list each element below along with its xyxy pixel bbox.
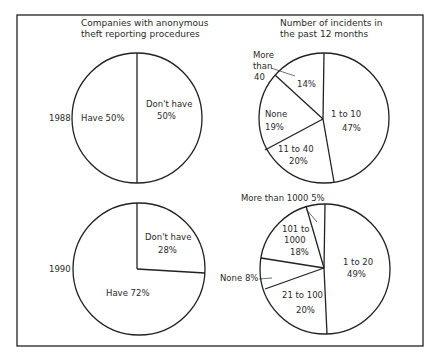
slice-label-none: None 8% — [220, 273, 258, 283]
slice-label-have: Have 50% — [81, 113, 124, 123]
right-column-title: Number of incidents in the past 12 month… — [280, 18, 382, 39]
slice-label-dont-have: Don't have — [145, 232, 191, 242]
svg-text:theft reporting procedures: theft reporting procedures — [81, 29, 200, 39]
slice-label-none: None — [265, 109, 287, 119]
slice-label-11-to-40: 11 to 40 — [278, 144, 314, 154]
svg-text:18%: 18% — [290, 247, 309, 257]
svg-text:the past 12 months: the past 12 months — [280, 29, 368, 39]
svg-text:Companies with anonymous: Companies with anonymous — [81, 18, 209, 28]
pie-1988-companies: Have 50% Don't have 50% — [72, 53, 202, 183]
svg-text:Number of incidents in: Number of incidents in — [280, 18, 382, 28]
slice-pct-more-than-40: 14% — [297, 79, 316, 89]
slice-label-more-than-1000: More than 1000 5% — [241, 193, 325, 203]
svg-text:20%: 20% — [289, 156, 308, 166]
svg-text:40: 40 — [254, 72, 265, 82]
slice-label-more-than-40: More — [253, 50, 274, 60]
slice-label-101-to-1000: 101 to — [282, 224, 309, 234]
slice-label-have: Have 72% — [106, 288, 149, 298]
pie-charts-figure: Companies with anonymous theft reporting… — [0, 0, 440, 360]
svg-text:than: than — [253, 61, 272, 71]
svg-text:19%: 19% — [265, 122, 284, 132]
year-label-1988: 1988 — [49, 113, 71, 123]
left-column-title: Companies with anonymous theft reporting… — [81, 18, 209, 39]
slice-label-dont-have-pct: 50% — [157, 111, 176, 121]
pie-1990-companies: Don't have 28% Have 72% — [73, 203, 205, 335]
pie-1988-incidents: More than 40 14% None 19% 1 to 10 47% 11… — [253, 50, 389, 183]
svg-text:20%: 20% — [296, 305, 315, 315]
svg-text:47%: 47% — [342, 123, 361, 133]
svg-text:28%: 28% — [158, 245, 177, 255]
slice-label-1-to-10: 1 to 10 — [331, 109, 361, 119]
svg-text:49%: 49% — [347, 269, 366, 279]
svg-text:1000: 1000 — [284, 235, 306, 245]
slice-label-1-to-20: 1 to 20 — [343, 257, 373, 267]
pie-1990-incidents: More than 1000 5% 101 to 1000 18% None 8… — [220, 193, 390, 334]
year-label-1990: 1990 — [49, 264, 71, 274]
leader-line — [306, 209, 317, 222]
slice-label-dont-have: Don't have — [146, 99, 192, 109]
slice-label-21-to-100: 21 to 100 — [282, 290, 323, 300]
